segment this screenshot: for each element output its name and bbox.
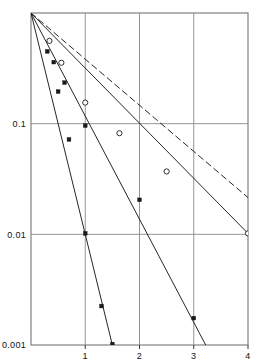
data-point-filled-square <box>83 231 87 235</box>
x-tick-label: 1 <box>83 351 88 361</box>
chart-figure: 0.10.010.001 1234 <box>0 0 259 362</box>
data-point-open-circle <box>83 100 88 105</box>
data-point-filled-square <box>63 81 67 85</box>
series-curve-1-steep <box>31 13 114 346</box>
data-point-open-circle <box>47 38 52 43</box>
data-point-filled-square <box>138 198 142 202</box>
x-tick-label: 3 <box>191 351 196 361</box>
data-point-open-circle <box>59 60 64 65</box>
series-line <box>31 13 206 345</box>
y-axis-tick-labels: 0.10.010.001 <box>2 119 26 350</box>
y-tick-label: 0.01 <box>7 230 26 240</box>
data-point-filled-square <box>52 60 56 64</box>
x-tick-label: 4 <box>245 351 250 361</box>
semilog-plot: 0.10.010.001 1234 <box>0 0 259 362</box>
x-axis-tick-labels: 1234 <box>83 351 251 361</box>
data-point-filled-square <box>67 138 71 142</box>
data-point-filled-square <box>45 49 49 53</box>
data-point-filled-square <box>83 124 87 128</box>
axis-ticks <box>85 345 248 349</box>
series-curve-2-middle <box>31 13 206 345</box>
y-tick-label: 0.001 <box>2 340 26 350</box>
data-point-open-circle <box>117 131 122 136</box>
series-line <box>31 13 112 345</box>
data-point-filled-square <box>100 304 104 308</box>
data-series <box>31 13 251 346</box>
data-point-filled-square <box>56 90 60 94</box>
y-tick-label: 0.1 <box>13 119 26 129</box>
data-point-open-circle <box>245 231 250 236</box>
data-point-open-circle <box>164 169 169 174</box>
series-curve-3-circles <box>31 13 251 236</box>
x-tick-label: 2 <box>137 351 142 361</box>
data-point-filled-square <box>192 316 196 320</box>
